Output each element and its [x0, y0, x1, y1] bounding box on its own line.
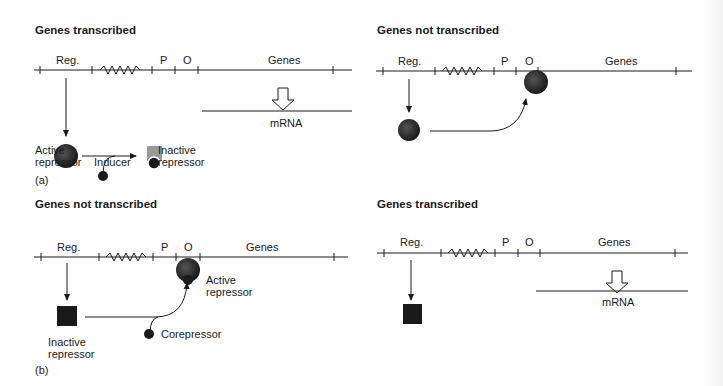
promoter-label: P — [502, 236, 509, 248]
promoter-label: P — [161, 241, 168, 253]
genes-label: Genes — [268, 54, 300, 66]
corepressor-label: Corepressor — [161, 328, 222, 340]
reg-label: Reg. — [56, 54, 79, 66]
reg-label: Reg. — [398, 55, 421, 67]
operator-label: O — [525, 236, 534, 248]
genes-label: Genes — [605, 55, 637, 67]
reg-label: Reg. — [57, 241, 80, 253]
caption-a: (a) — [35, 174, 48, 186]
genes-label: Genes — [598, 236, 630, 248]
inactive-repressor-label: Inactive repressor — [158, 144, 208, 168]
panel-d-title: Genes transcribed — [377, 198, 478, 210]
panel-b-title: Genes not transcribed — [377, 24, 499, 36]
operator-label: O — [525, 55, 534, 67]
mrna-label: mRNA — [602, 296, 634, 308]
promoter-label: P — [501, 55, 508, 67]
inducer-label: Inducer — [94, 156, 131, 168]
panel-a-title: Genes transcribed — [35, 24, 136, 36]
genes-label: Genes — [246, 241, 278, 253]
reg-label: Reg. — [400, 236, 423, 248]
corepressor-icon — [144, 329, 154, 339]
panel-c-title: Genes not transcribed — [35, 198, 157, 210]
promoter-label: P — [160, 54, 167, 66]
inducer-icon — [98, 171, 108, 181]
active-repressor-label: Active repressor — [35, 144, 85, 168]
active-repressor-label: Active repressor — [206, 274, 256, 298]
caption-b: (b) — [35, 364, 48, 376]
inactive-repressor-label: Inactive repressor — [48, 336, 98, 360]
operator-label: O — [183, 54, 192, 66]
mrna-label: mRNA — [270, 117, 302, 129]
operator-label: O — [184, 241, 193, 253]
